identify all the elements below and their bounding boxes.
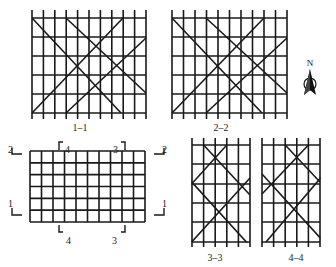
- section-cut-label: 3: [112, 235, 117, 246]
- north-arrow: N: [304, 58, 316, 95]
- section-cut-label: 4: [65, 144, 70, 155]
- section-cut-marker-4-top: [59, 142, 63, 150]
- section-cut-marker-3-bottom: [121, 225, 125, 232]
- section-2-2: [172, 10, 287, 119]
- diagonal-brace-line: [188, 145, 227, 188]
- section-cut-label: 4: [66, 235, 71, 246]
- section-cut-marker-2-left: [12, 148, 22, 154]
- section-1-1: [32, 10, 146, 119]
- section-cut-marker-3-top: [121, 142, 125, 150]
- section-cut-label: 3: [113, 144, 118, 155]
- section-cut-label: 2: [8, 144, 13, 155]
- section-cut-marker-1-left: [12, 208, 22, 215]
- section-cut-label: 1: [8, 198, 13, 209]
- north-arrow-icon: [304, 69, 316, 95]
- section-label-4-4: 4–4: [289, 252, 304, 263]
- section-cut-marker-1-right: [154, 208, 164, 215]
- plan-grid: [30, 151, 145, 222]
- structural-grid-diagram: 1–1 2–2 3–3 4–4 22114343 N: [0, 0, 336, 267]
- section-label-3-3: 3–3: [208, 252, 223, 263]
- section-cut-label: 1: [162, 198, 167, 209]
- section-4-4: [262, 138, 324, 247]
- section-cut-label: 2: [162, 144, 167, 155]
- section-label-2-2: 2–2: [214, 122, 229, 133]
- north-label: N: [307, 58, 314, 68]
- section-3-3: [188, 138, 250, 247]
- section-cut-marker-4-bottom: [59, 225, 63, 232]
- section-label-1-1: 1–1: [73, 122, 88, 133]
